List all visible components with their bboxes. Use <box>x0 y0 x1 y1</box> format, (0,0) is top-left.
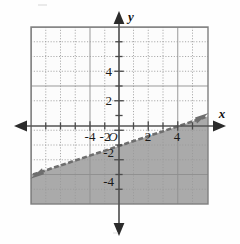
y-tick-label-neg4: -4 <box>103 174 114 189</box>
graph-figure: -4 -2 -2 2 4 4 2 -2 -4 O x y <box>0 0 240 244</box>
x-tick-label-neg4: -4 <box>85 129 96 144</box>
origin-label: O <box>108 129 118 144</box>
x-axis-arrow-right <box>213 121 226 132</box>
y-axis-arrow-down <box>114 223 125 236</box>
y-axis-arrow-up <box>114 11 125 24</box>
y-axis-label: y <box>126 9 134 24</box>
x-tick-label-2: 2 <box>145 129 152 144</box>
scan-artifact-bottom-center <box>113 232 118 234</box>
y-tick-label-4: 4 <box>106 64 113 79</box>
x-axis-label: x <box>218 106 226 121</box>
x-tick-label-4: 4 <box>174 129 181 144</box>
scan-artifact-top-left <box>38 4 47 6</box>
x-axis-arrow-left <box>14 121 27 132</box>
y-tick-label-2: 2 <box>106 93 113 108</box>
coordinate-plane: -4 -2 -2 2 4 4 2 -2 -4 O x y <box>0 0 240 244</box>
y-tick-label-neg2: -2 <box>103 145 114 160</box>
